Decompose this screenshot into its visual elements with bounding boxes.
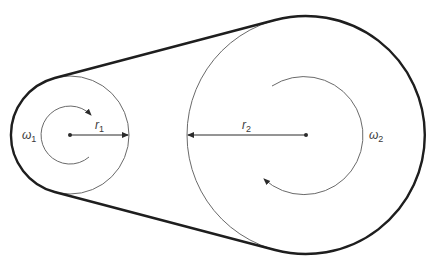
omega2-subscript: 2 bbox=[378, 134, 383, 144]
belt-drive-diagram: ω1 r1 r2 ω2 bbox=[0, 0, 436, 269]
r1-subscript: 1 bbox=[99, 124, 104, 134]
omega1-label: ω1 bbox=[22, 128, 36, 144]
omega2-symbol: ω bbox=[369, 128, 378, 142]
r2-label: r2 bbox=[242, 118, 251, 134]
omega2-label: ω2 bbox=[369, 128, 383, 144]
omega2-rotation-arrow-icon bbox=[264, 77, 363, 195]
omega1-symbol: ω bbox=[22, 128, 31, 142]
r2-subscript: 2 bbox=[246, 124, 251, 134]
r1-label: r1 bbox=[95, 118, 104, 134]
omega1-subscript: 1 bbox=[31, 134, 36, 144]
